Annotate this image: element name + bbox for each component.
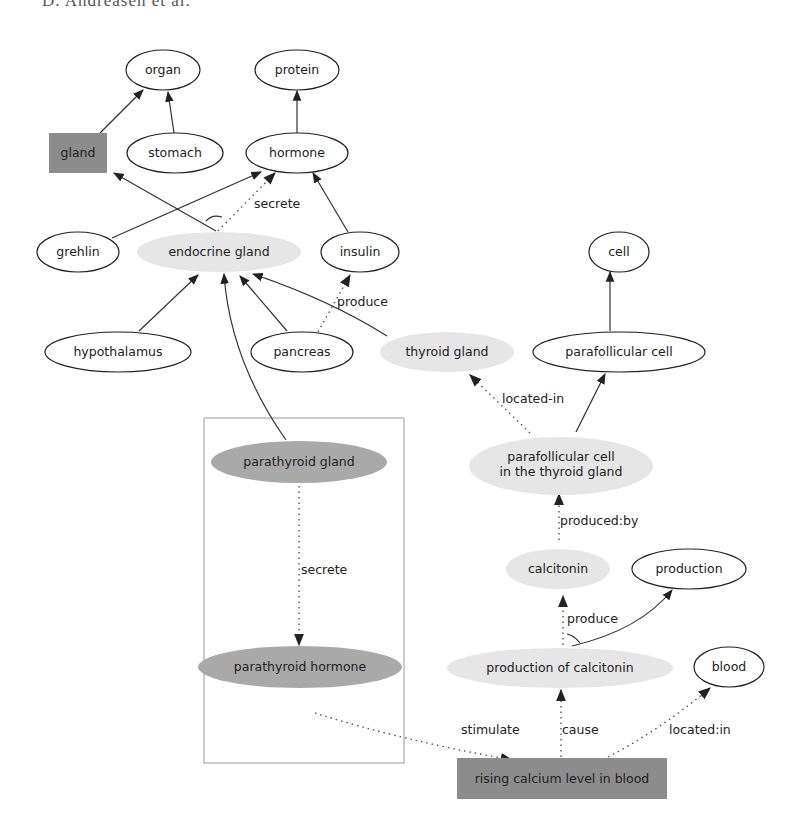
edge-label-secrete: secrete	[254, 196, 301, 211]
svg-text:pancreas: pancreas	[273, 344, 330, 359]
node-parathyroid-hormone[interactable]: parathyroid hormone	[198, 646, 402, 688]
svg-text:hormone: hormone	[269, 145, 325, 160]
svg-text:stomach: stomach	[148, 145, 202, 160]
node-production[interactable]: production	[632, 549, 746, 589]
node-protein[interactable]: protein	[255, 50, 339, 90]
node-hypothalamus[interactable]: hypothalamus	[45, 332, 191, 372]
svg-text:parathyroid gland: parathyroid gland	[243, 454, 354, 469]
svg-text:parafollicular cell: parafollicular cell	[507, 449, 614, 464]
svg-text:endocrine gland: endocrine gland	[168, 244, 269, 259]
svg-text:rising calcium level in blood: rising calcium level in blood	[475, 771, 650, 786]
svg-text:calcitonin: calcitonin	[528, 561, 588, 576]
edge-label-produce-calc: produce	[567, 611, 618, 626]
node-hormone[interactable]: hormone	[246, 133, 348, 173]
node-thyroid-gland[interactable]: thyroid gland	[380, 332, 514, 372]
edge-label-produce: produce	[337, 294, 388, 309]
node-calcitonin[interactable]: calcitonin	[506, 549, 610, 589]
node-production-of-calcitonin[interactable]: production of calcitonin	[447, 648, 673, 688]
node-parafollicular-cell-in-thyroid[interactable]: parafollicular cellin the thyroid gland	[469, 437, 653, 495]
node-endocrine-gland[interactable]: endocrine gland	[137, 232, 301, 272]
svg-text:in the thyroid gland: in the thyroid gland	[500, 464, 623, 479]
edge-label-produced-by: produced:by	[560, 513, 639, 528]
node-insulin[interactable]: insulin	[321, 232, 399, 272]
svg-text:parafollicular cell: parafollicular cell	[565, 344, 672, 359]
node-organ[interactable]: organ	[126, 50, 200, 90]
node-parathyroid-gland[interactable]: parathyroid gland	[211, 441, 387, 483]
svg-text:grehlin: grehlin	[56, 244, 99, 259]
svg-text:production: production	[655, 561, 722, 576]
node-stomach[interactable]: stomach	[127, 133, 223, 173]
svg-text:blood: blood	[712, 659, 747, 674]
node-gland[interactable]: gland	[49, 133, 107, 173]
node-grehlin[interactable]: grehlin	[37, 232, 119, 272]
svg-text:hypothalamus: hypothalamus	[73, 344, 162, 359]
edge-label-stimulate: stimulate	[461, 722, 520, 737]
node-blood[interactable]: blood	[694, 647, 764, 687]
svg-text:organ: organ	[145, 62, 181, 77]
edge-label-secrete-para: secrete	[301, 562, 348, 577]
svg-text:thyroid gland: thyroid gland	[405, 344, 488, 359]
node-parafollicular-cell[interactable]: parafollicular cell	[533, 332, 705, 372]
svg-text:protein: protein	[275, 62, 319, 77]
svg-text:production of calcitonin: production of calcitonin	[486, 660, 633, 675]
svg-text:parathyroid hormone: parathyroid hormone	[234, 659, 367, 674]
edge-label-located-in-blood: located:in	[669, 722, 731, 737]
svg-text:insulin: insulin	[340, 244, 381, 259]
svg-text:cell: cell	[608, 244, 630, 259]
svg-text:gland: gland	[61, 145, 96, 160]
node-rising-calcium[interactable]: rising calcium level in blood	[457, 758, 667, 799]
edge-label-located-in: located-in	[502, 391, 564, 406]
node-pancreas[interactable]: pancreas	[251, 332, 353, 372]
knowledge-graph-diagram: organ protein gland stomach hormone greh…	[0, 0, 804, 836]
node-cell[interactable]: cell	[589, 232, 649, 272]
edge-label-cause: cause	[562, 722, 599, 737]
